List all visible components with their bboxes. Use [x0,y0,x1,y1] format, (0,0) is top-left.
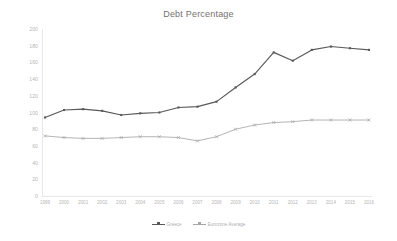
data-point-marker [215,101,217,103]
y-axis: 020406080100120140160180200 [0,29,38,196]
x-tick-label: 2003 [116,200,126,205]
plot-area [42,29,372,196]
x-axis-line [42,196,372,197]
data-point-marker [273,51,275,53]
legend-entry-eurozone-average[interactable]: Eurozone Average [193,221,246,227]
x-tick-label: 2014 [326,200,336,205]
y-tick-label: 200 [0,26,38,32]
x-tick-label: 2012 [288,200,298,205]
data-point-marker [44,116,46,118]
y-tick-label: 20 [0,176,38,182]
data-point-marker [139,112,141,114]
data-point-marker [311,49,313,51]
debt-percentage-line-chart: Debt Percentage 020406080100120140160180… [0,0,397,241]
chart-title: Debt Percentage [0,9,397,19]
y-tick-label: 40 [0,160,38,166]
x-tick-label: 1999 [40,200,50,205]
series-canvas [42,29,372,196]
series-line [45,47,369,118]
data-point-marker [235,86,237,88]
x-tick-label: 2002 [97,200,107,205]
legend: GreeceEurozone Average [0,221,397,227]
legend-marker-icon [152,221,165,227]
data-point-marker [158,111,160,113]
data-point-marker [349,47,351,49]
data-point-marker [330,45,332,47]
x-tick-label: 2005 [154,200,164,205]
series-greece [44,45,370,118]
x-tick-label: 2004 [135,200,145,205]
x-tick-label: 2007 [192,200,202,205]
data-point-marker [196,106,198,108]
x-axis: 1999200020012002200320042005200620072008… [42,200,372,212]
legend-label: Greece [167,222,182,227]
y-tick-label: 160 [0,59,38,65]
y-tick-label: 180 [0,43,38,49]
data-point-marker [177,106,179,108]
data-point-marker [120,114,122,116]
x-tick-label: 2015 [345,200,355,205]
data-point-marker [63,109,65,111]
y-tick-label: 0 [0,193,38,199]
data-point-marker [82,108,84,110]
x-tick-label: 2009 [230,200,240,205]
data-point-marker [292,60,294,62]
x-tick-label: 2011 [269,200,279,205]
y-tick-label: 120 [0,93,38,99]
y-tick-label: 140 [0,76,38,82]
x-tick-label: 2006 [173,200,183,205]
x-tick-label: 2008 [211,200,221,205]
legend-label: Eurozone Average [208,222,246,227]
legend-entry-greece[interactable]: Greece [152,221,182,227]
data-point-marker [254,73,256,75]
x-tick-label: 2010 [250,200,260,205]
legend-marker-icon [193,221,206,227]
x-tick-label: 2016 [364,200,374,205]
data-point-marker [368,49,370,51]
y-tick-label: 60 [0,143,38,149]
series-line [45,120,369,141]
x-tick-label: 2013 [307,200,317,205]
series-eurozone-average [44,119,371,143]
y-tick-label: 100 [0,110,38,116]
x-tick-label: 2001 [78,200,88,205]
data-point-marker [101,110,103,112]
x-tick-label: 2000 [59,200,69,205]
y-tick-label: 80 [0,126,38,132]
